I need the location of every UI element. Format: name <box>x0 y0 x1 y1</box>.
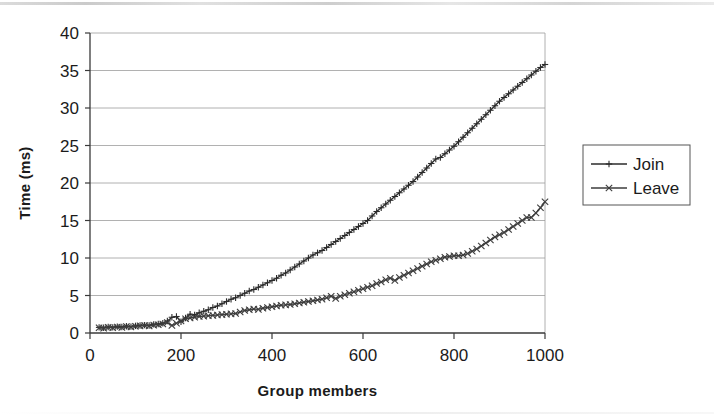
line-chart: 051015202530354002004006008001000Group m… <box>0 0 714 415</box>
y-tick-label: 25 <box>60 137 79 156</box>
y-axis-title: Time (ms) <box>16 146 33 219</box>
legend-label-join: Join <box>633 155 664 174</box>
series-join <box>96 61 548 331</box>
series-leave <box>96 199 548 332</box>
y-tick-label: 10 <box>60 249 79 268</box>
chart-figure: 051015202530354002004006008001000Group m… <box>0 0 714 415</box>
legend-label-leave: Leave <box>633 179 679 198</box>
x-tick-label: 800 <box>440 346 468 365</box>
y-tick-label: 0 <box>70 324 79 343</box>
series-line <box>99 65 545 328</box>
y-tick-label: 15 <box>60 212 79 231</box>
y-tick-label: 20 <box>60 174 79 193</box>
y-tick-label: 5 <box>70 287 79 306</box>
x-tick-label: 1000 <box>526 346 564 365</box>
x-tick-label: 400 <box>258 346 286 365</box>
x-tick-label: 0 <box>85 346 94 365</box>
y-tick-label: 40 <box>60 24 79 43</box>
x-tick-label: 600 <box>349 346 377 365</box>
x-tick-label: 200 <box>167 346 195 365</box>
x-axis-title: Group members <box>258 382 378 399</box>
y-tick-label: 30 <box>60 99 79 118</box>
y-tick-label: 35 <box>60 62 79 81</box>
